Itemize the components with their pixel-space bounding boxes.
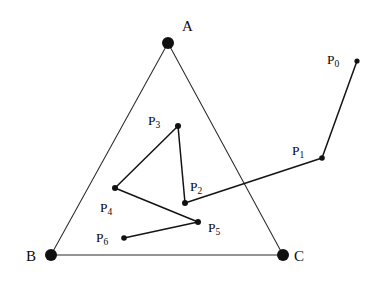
point-dot-p0 bbox=[354, 58, 359, 63]
point-label-subscript: 2 bbox=[198, 186, 203, 196]
segment-P5-P6 bbox=[124, 222, 198, 238]
point-label-subscript: 1 bbox=[300, 150, 305, 160]
vertex-dot-a bbox=[162, 37, 174, 49]
point-label-p5: P5 bbox=[208, 220, 221, 237]
polyline-path bbox=[115, 61, 357, 238]
point-dots bbox=[112, 58, 360, 240]
vertex-dot-c bbox=[277, 249, 289, 261]
point-label-p4: P4 bbox=[100, 200, 113, 217]
point-dot-p1 bbox=[319, 155, 325, 161]
vertex-dots bbox=[45, 37, 289, 261]
point-dot-p6 bbox=[121, 235, 127, 241]
point-dot-p5 bbox=[195, 219, 201, 225]
point-label-subscript: 5 bbox=[216, 227, 221, 237]
segment-P3-P4 bbox=[115, 126, 178, 188]
point-label-p2: P2 bbox=[190, 179, 203, 196]
point-label-subscript: 0 bbox=[335, 59, 340, 69]
point-label-p1: P1 bbox=[292, 143, 305, 160]
point-dot-p2 bbox=[182, 200, 188, 206]
point-label-subscript: 4 bbox=[108, 207, 113, 217]
vertex-label-c: C bbox=[294, 248, 304, 264]
segment-P0-P1 bbox=[322, 61, 357, 158]
point-label-p6: P6 bbox=[96, 230, 109, 247]
point-label-subscript: 3 bbox=[156, 120, 161, 130]
point-label-p0: P0 bbox=[327, 52, 340, 69]
segment-P2-P3 bbox=[178, 126, 185, 203]
triangle-edges bbox=[51, 43, 283, 255]
vertex-label-b: B bbox=[26, 248, 36, 264]
point-dot-p4 bbox=[112, 185, 118, 191]
point-labels: P0P1P2P3P4P5P6 bbox=[96, 52, 340, 247]
segment-P1-P2 bbox=[185, 158, 322, 203]
point-label-subscript: 6 bbox=[104, 237, 109, 247]
edge-AC bbox=[168, 43, 283, 255]
diagram-canvas: P0P1P2P3P4P5P6 ABC bbox=[0, 0, 390, 284]
vertex-label-a: A bbox=[182, 18, 193, 34]
vertex-labels: ABC bbox=[26, 18, 304, 264]
diagram-figure: P0P1P2P3P4P5P6 ABC bbox=[0, 0, 390, 284]
edge-AB bbox=[51, 43, 168, 255]
point-dot-p3 bbox=[175, 123, 181, 129]
point-label-p3: P3 bbox=[148, 113, 161, 130]
vertex-dot-b bbox=[45, 249, 57, 261]
